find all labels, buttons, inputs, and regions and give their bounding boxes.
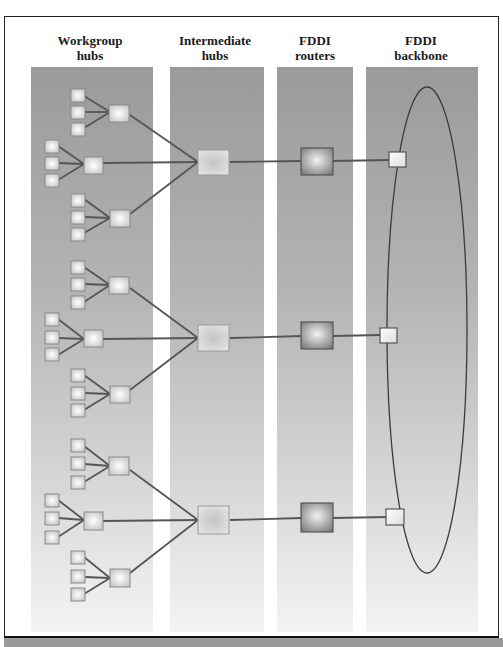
- fddi-router-icon: [301, 322, 333, 349]
- workstation-icon: [71, 194, 85, 207]
- workstation-icon: [71, 404, 85, 417]
- workstation-icon: [71, 211, 85, 224]
- workstation-icon: [45, 174, 59, 187]
- workstation-icon: [71, 387, 85, 400]
- intermediate-hub-icon: [198, 506, 229, 534]
- workgroup-hub-icon: [110, 210, 130, 227]
- workstation-icon: [71, 570, 85, 583]
- workgroup-hub-icon: [84, 330, 103, 347]
- workstation-icon: [71, 457, 85, 470]
- workstation-icon: [45, 331, 59, 344]
- workstation-icon: [71, 551, 85, 564]
- workstation-icon: [45, 348, 59, 361]
- workstation-icon: [71, 369, 85, 382]
- workstation-icon: [45, 157, 59, 170]
- workstation-icon: [71, 278, 85, 291]
- backbone-node-icon: [380, 328, 397, 343]
- network-diagram: [0, 0, 503, 647]
- workstation-icon: [45, 140, 59, 153]
- backbone-node-icon: [386, 509, 404, 525]
- workstation-icon: [45, 494, 59, 507]
- workgroup-hub-icon: [109, 277, 129, 294]
- workstation-icon: [71, 261, 85, 274]
- workgroup-hub-icon: [109, 457, 129, 475]
- workgroup-hub-icon: [109, 105, 129, 122]
- workstation-icon: [71, 123, 85, 136]
- workstation-icon: [71, 228, 85, 241]
- workgroup-hub-icon: [110, 386, 130, 403]
- workstation-icon: [71, 439, 85, 452]
- fddi-router-icon: [301, 148, 333, 175]
- workstation-icon: [45, 531, 59, 544]
- group-3: [45, 439, 404, 601]
- workstation-icon: [71, 296, 85, 309]
- workstation-icon: [71, 588, 85, 601]
- group-1: [45, 89, 406, 241]
- workgroup-hub-icon: [84, 512, 103, 530]
- intermediate-hub-icon: [198, 150, 229, 175]
- backbone-node-icon: [389, 152, 406, 167]
- workstation-icon: [45, 313, 59, 326]
- workstation-icon: [45, 512, 59, 525]
- group-2: [45, 261, 397, 417]
- workgroup-hub-icon: [110, 569, 130, 587]
- workgroup-hub-icon: [84, 157, 103, 174]
- workstation-icon: [71, 476, 85, 489]
- intermediate-hub-icon: [198, 325, 229, 351]
- fddi-router-icon: [301, 503, 333, 532]
- workstation-icon: [71, 106, 85, 119]
- workstation-icon: [71, 89, 85, 102]
